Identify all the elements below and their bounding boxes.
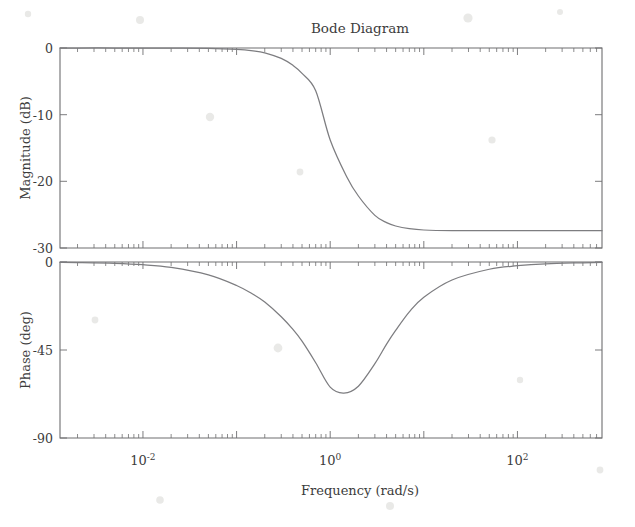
tick-mantissa: 10 — [319, 453, 336, 468]
magnitude-ytick-minus20: -20 — [33, 174, 53, 189]
phase-axis-label: Phase (deg) — [18, 311, 33, 389]
phase-panel: 0 -45 -90 Phase (deg) — [18, 255, 602, 446]
frequency-tick-label-2: 102 — [506, 452, 528, 468]
magnitude-panel: 0 -10 -20 -30 Magnitude (dB) — [18, 41, 602, 256]
figure-canvas: Bode Diagram 0 -10 -20 -30 — [0, 0, 635, 527]
magnitude-axes-frame — [60, 48, 602, 248]
magnitude-ytick-minus10: -10 — [33, 108, 53, 123]
frequency-axis-label: Frequency (rad/s) — [301, 483, 419, 498]
magnitude-x-ticks — [78, 48, 597, 248]
phase-ytick-0: 0 — [45, 255, 53, 270]
tick-mantissa: 10 — [130, 453, 147, 468]
figure-title: Bode Diagram — [311, 20, 409, 36]
magnitude-ytick-0: 0 — [45, 41, 53, 56]
tick-mantissa: 10 — [506, 453, 523, 468]
phase-y-ticks — [60, 262, 602, 438]
magnitude-ytick-minus30: -30 — [33, 241, 53, 256]
frequency-tick-label-1: 100 — [319, 452, 342, 468]
phase-response-curve — [60, 262, 602, 393]
phase-ytick-minus45: -45 — [33, 343, 53, 358]
magnitude-axis-label: Magnitude (dB) — [18, 96, 33, 200]
paper-speckles — [25, 9, 604, 510]
tick-exponent: -2 — [147, 452, 156, 462]
phase-ytick-minus90: -90 — [33, 431, 53, 446]
bode-diagram-figure: Bode Diagram 0 -10 -20 -30 — [0, 0, 635, 527]
magnitude-y-ticks — [60, 48, 602, 248]
frequency-tick-label-0: 10-2 — [130, 452, 155, 468]
tick-exponent: 0 — [336, 452, 342, 462]
phase-x-ticks — [78, 262, 597, 438]
magnitude-response-curve — [60, 48, 602, 231]
phase-axes-frame — [60, 262, 602, 438]
tick-exponent: 2 — [523, 452, 529, 462]
frequency-tick-labels: 10-2100102 — [130, 452, 528, 468]
